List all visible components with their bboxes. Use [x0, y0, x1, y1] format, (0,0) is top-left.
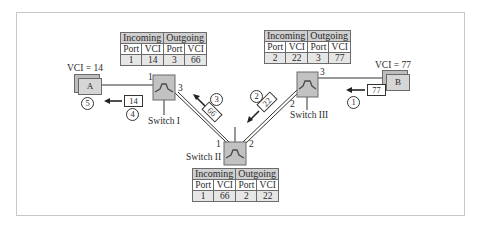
step-5-marker: 5	[81, 97, 94, 110]
table-row: 1 66 2 22	[193, 191, 279, 202]
col-vci-in: VCI	[214, 180, 236, 191]
switch-3-name: Switch III	[290, 110, 328, 120]
arrow-step-1-icon	[346, 87, 365, 93]
endpoint-b: B	[386, 74, 410, 91]
col-vci-in: VCI	[142, 44, 164, 55]
incoming-header: Incoming	[121, 33, 164, 44]
col-vci-in: VCI	[286, 42, 308, 53]
cell-in-vci: 22	[286, 53, 308, 64]
arrow-step-4-icon	[104, 98, 122, 104]
step-4-marker: 4	[126, 108, 139, 121]
cell-in-vci: 14	[142, 55, 164, 66]
switch-1-vc-table: Incoming Outgoing Port VCI Port VCI 1 14…	[120, 32, 207, 66]
step-3-marker: 3	[210, 93, 223, 106]
cell-out-port: 2	[236, 191, 257, 202]
switch-1-port-1: 1	[148, 72, 153, 82]
cell-in-port: 1	[193, 191, 214, 202]
col-port-in: Port	[193, 180, 214, 191]
cell-out-port: 3	[308, 53, 329, 64]
incoming-header: Incoming	[265, 31, 308, 42]
step-1-marker: 1	[347, 96, 360, 109]
col-vci-out: VCI	[185, 44, 207, 55]
outgoing-header: Outgoing	[236, 169, 279, 180]
endpoint-a: A	[78, 78, 102, 95]
switch-1-icon	[153, 75, 175, 100]
switch-3-vc-table: Incoming Outgoing Port VCI Port VCI 2 22…	[264, 30, 351, 64]
switch-1-name: Switch I	[148, 116, 180, 126]
cell-in-port: 2	[265, 53, 286, 64]
cell-in-port: 1	[121, 55, 142, 66]
switch-2-port-1: 1	[216, 139, 221, 149]
table-row: 2 22 3 77	[265, 53, 351, 64]
switch-3-port-2: 2	[290, 99, 295, 109]
arrow-step-2-icon	[247, 111, 259, 123]
arrow-step-3-icon	[193, 94, 206, 107]
col-port-out: Port	[164, 44, 185, 55]
switch-3-port-3: 3	[320, 67, 325, 77]
col-port-in: Port	[121, 44, 142, 55]
switch-2-vc-table: Incoming Outgoing Port VCI Port VCI 1 66…	[192, 168, 279, 202]
col-port-in: Port	[265, 42, 286, 53]
packet-step-1-vci: 77	[367, 84, 386, 96]
col-vci-out: VCI	[329, 42, 351, 53]
switch-2-port-2: 2	[249, 139, 254, 149]
packet-step-4-vci: 14	[124, 95, 143, 107]
step-2-marker: 2	[250, 90, 263, 103]
switch-1-port-3: 3	[178, 83, 183, 93]
outgoing-header: Outgoing	[308, 31, 351, 42]
col-port-out: Port	[308, 42, 329, 53]
endpoint-a-vci-label: VCI = 14	[67, 63, 103, 73]
col-port-out: Port	[236, 180, 257, 191]
cell-out-vci: 66	[185, 55, 207, 66]
switch-2-icon	[224, 142, 246, 165]
cell-out-port: 3	[164, 55, 185, 66]
endpoint-b-vci-label: VCI = 77	[375, 60, 411, 70]
col-vci-out: VCI	[257, 180, 279, 191]
switch-2-name: Switch II	[186, 152, 221, 162]
incoming-header: Incoming	[193, 169, 236, 180]
outgoing-header: Outgoing	[164, 33, 207, 44]
cell-out-vci: 77	[329, 53, 351, 64]
table-row: 1 14 3 66	[121, 55, 207, 66]
cell-in-vci: 66	[214, 191, 236, 202]
cell-out-vci: 22	[257, 191, 279, 202]
switch-3-icon	[297, 72, 318, 97]
